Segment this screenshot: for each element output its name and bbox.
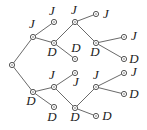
tree-edge [33, 37, 54, 43]
tree-edge [96, 73, 124, 87]
tree-edge [33, 22, 54, 37]
node-center-dot [95, 13, 96, 14]
node-center-dot [53, 86, 54, 87]
tree-edge [96, 43, 124, 59]
tree-edge [33, 92, 54, 107]
node-label: J [131, 28, 138, 43]
tree-edge [54, 87, 75, 108]
node-center-dot [123, 93, 124, 94]
node-center-dot [74, 58, 75, 59]
tree-edge [54, 73, 75, 87]
node-label: D [46, 44, 57, 59]
node-label: D [70, 40, 81, 55]
node-label: D [46, 109, 57, 124]
node-center-dot [95, 86, 96, 87]
node-center-dot [53, 106, 54, 107]
tree-edge [75, 87, 96, 108]
node-label: J [49, 67, 56, 82]
node-label: J [131, 64, 138, 79]
tree-edge [33, 87, 54, 92]
tree-edge [12, 65, 33, 92]
node-center-dot [74, 21, 75, 22]
node-center-dot [95, 115, 96, 116]
node-label: D [25, 93, 36, 108]
node-label: J [73, 74, 80, 89]
node-center-dot [32, 36, 33, 37]
node-center-dot [123, 58, 124, 59]
node-label: D [69, 109, 80, 124]
node-label: D [128, 86, 139, 101]
tree-edge [96, 87, 124, 94]
node-label: J [93, 67, 100, 82]
tree-edge [96, 37, 124, 43]
node-label: D [89, 44, 100, 59]
node-label: J [49, 3, 56, 18]
tree-diagram: JDJDJDJDJDJDJDJDJD [0, 0, 147, 130]
tree-edge [12, 37, 33, 65]
tree-edge [75, 14, 96, 22]
node-label: J [103, 6, 110, 21]
node-center-dot [53, 21, 54, 22]
node-label: D [101, 108, 112, 123]
node-center-dot [123, 72, 124, 73]
node-label: J [71, 2, 78, 17]
node-label: J [29, 16, 36, 31]
node-center-dot [11, 64, 12, 65]
node-center-dot [123, 36, 124, 37]
